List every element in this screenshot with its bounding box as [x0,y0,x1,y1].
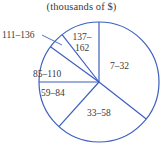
pie-chart-figure: (thousands of $) 7–32 33–58 59–84 85–110… [0,0,163,149]
pie-slice-label-59-84: 59–84 [41,88,65,99]
pie-chart-graphic [0,0,163,149]
pie-slice-label-33-58: 33–58 [87,108,111,119]
pie-slice-label-137-162-line1: 137– [69,32,95,43]
pie-slice-label-111-136: 111–136 [2,30,35,41]
pie-slice-label-137-162: 137– 162 [69,32,95,53]
pie-slice-label-7-32: 7–32 [110,61,129,72]
pie-slice-label-85-110: 85–110 [33,69,61,80]
pie-slice-label-137-162-line2: 162 [69,43,95,54]
